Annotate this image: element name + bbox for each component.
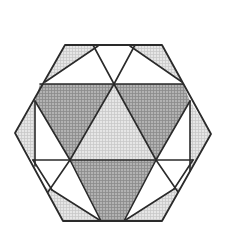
diagonal-line bbox=[93, 45, 114, 84]
diagonal-line bbox=[114, 45, 135, 84]
hexagon-diagram bbox=[0, 0, 230, 232]
diagonal-line bbox=[48, 160, 70, 192]
diagonal-line bbox=[33, 160, 52, 190]
light-corner-left bbox=[15, 101, 35, 165]
shaded-regions bbox=[15, 45, 211, 221]
